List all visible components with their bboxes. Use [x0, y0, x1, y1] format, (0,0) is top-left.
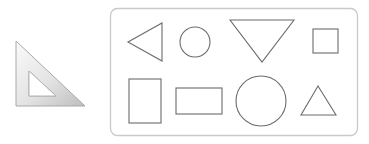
- scene: [0, 0, 369, 144]
- shapes-panel: [111, 9, 358, 136]
- set-square-icon: [16, 41, 85, 106]
